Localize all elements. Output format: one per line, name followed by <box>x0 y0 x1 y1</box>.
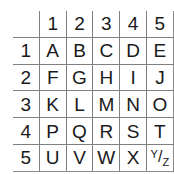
row-header-1[interactable]: 1 <box>13 37 39 64</box>
table-row: 5 U V W X Y/Z <box>13 144 173 171</box>
fraction-numerator: Y <box>151 149 158 161</box>
column-header-1[interactable]: 1 <box>39 11 66 37</box>
column-header-5[interactable]: 5 <box>146 11 173 37</box>
cell-r5c3[interactable]: W <box>93 144 120 171</box>
row-header-3[interactable]: 3 <box>13 91 39 118</box>
cell-r3c2[interactable]: L <box>66 91 93 118</box>
y-over-z-fraction: Y/Z <box>151 147 170 168</box>
table-row: 2 F G H I J <box>13 64 173 91</box>
polybius-square-figure: 1 2 3 4 5 1 A B C D E 2 F G H I <box>13 11 168 166</box>
cell-r2c2[interactable]: G <box>66 64 93 91</box>
cell-r4c5[interactable]: T <box>146 118 173 145</box>
corner-blank-cell <box>13 11 39 37</box>
cell-r3c1[interactable]: K <box>39 91 66 118</box>
cell-r1c5[interactable]: E <box>146 37 173 64</box>
row-header-4[interactable]: 4 <box>13 118 39 145</box>
cell-r2c4[interactable]: I <box>120 64 147 91</box>
cell-r2c1[interactable]: F <box>39 64 66 91</box>
table-header-row: 1 2 3 4 5 <box>13 11 173 37</box>
cell-r5c2[interactable]: V <box>66 144 93 171</box>
table-row: 4 P Q R S T <box>13 118 173 145</box>
column-header-4[interactable]: 4 <box>120 11 147 37</box>
cell-r3c3[interactable]: M <box>93 91 120 118</box>
cell-r1c3[interactable]: C <box>93 37 120 64</box>
table-row: 1 A B C D E <box>13 37 173 64</box>
cell-r1c4[interactable]: D <box>120 37 147 64</box>
row-header-5[interactable]: 5 <box>13 144 39 171</box>
polybius-grid-table: 1 2 3 4 5 1 A B C D E 2 F G H I <box>13 11 174 172</box>
cell-r1c2[interactable]: B <box>66 37 93 64</box>
cell-r4c2[interactable]: Q <box>66 118 93 145</box>
fraction-denominator: Z <box>162 157 169 169</box>
cell-r5c4[interactable]: X <box>120 144 147 171</box>
cell-r4c3[interactable]: R <box>93 118 120 145</box>
cell-r3c5[interactable]: O <box>146 91 173 118</box>
cell-r4c1[interactable]: P <box>39 118 66 145</box>
row-header-2[interactable]: 2 <box>13 64 39 91</box>
cell-r2c3-intersection[interactable]: H <box>93 64 120 91</box>
column-header-2[interactable]: 2 <box>66 11 93 37</box>
cell-r2c5[interactable]: J <box>146 64 173 91</box>
cell-r5c1[interactable]: U <box>39 144 66 171</box>
cell-r1c1[interactable]: A <box>39 37 66 64</box>
table-row: 3 K L M N O <box>13 91 173 118</box>
cell-r4c4[interactable]: S <box>120 118 147 145</box>
cell-r5c5-combined[interactable]: Y/Z <box>146 144 173 171</box>
column-header-3[interactable]: 3 <box>93 11 120 37</box>
cell-r3c4[interactable]: N <box>120 91 147 118</box>
